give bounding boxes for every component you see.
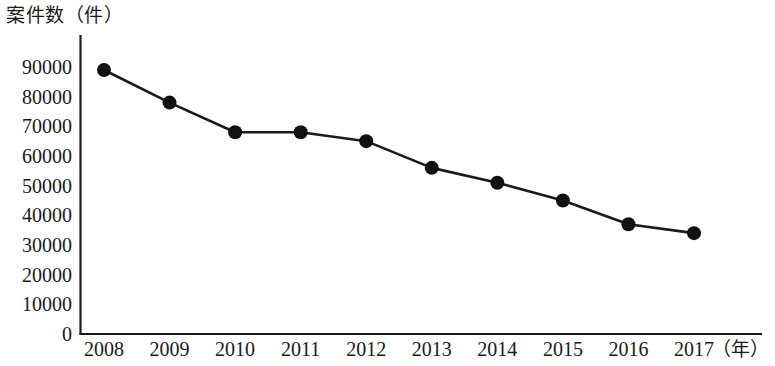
data-point-marker — [687, 226, 701, 240]
data-point-marker — [294, 125, 308, 139]
chart-figure: 案件数（件） 900008000070000600005000040000300… — [0, 0, 775, 366]
data-point-marker — [228, 125, 242, 139]
data-point-marker — [490, 176, 504, 190]
data-point-marker — [621, 217, 635, 231]
line-chart-plot — [0, 0, 775, 366]
chart-axes — [79, 35, 762, 335]
data-point-marker — [97, 63, 111, 77]
data-point-marker — [359, 134, 373, 148]
data-point-marker — [163, 96, 177, 110]
data-point-marker — [556, 194, 570, 208]
data-point-marker — [425, 161, 439, 175]
data-point-markers — [97, 63, 701, 240]
data-line-series — [104, 70, 694, 233]
